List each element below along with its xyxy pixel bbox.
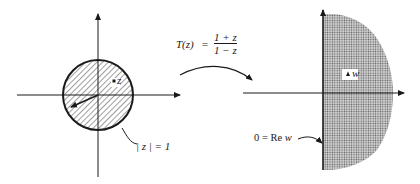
boundary-label-leader — [298, 137, 322, 143]
right-plane — [243, 10, 404, 170]
mapping-arrow-icon — [180, 66, 252, 80]
mapping-numerator: 1 + z — [214, 31, 237, 43]
diagram-canvas — [0, 0, 420, 184]
boundary-label-prefix: 0 = Re — [254, 132, 285, 143]
point-z-label: z — [117, 74, 121, 86]
mapping-equals: = — [202, 38, 208, 50]
unit-circle-label: | z | = 1 — [136, 140, 170, 152]
conformal-map-diagram: z | z | = 1 T(z) = 1 + z 1 − z w 0 = Re … — [0, 0, 420, 184]
mapping-denominator: 1 − z — [214, 44, 237, 56]
mapping-lhs: T(z) — [176, 38, 194, 50]
boundary-label-var: w — [285, 132, 292, 143]
circle-label-leader — [122, 128, 137, 144]
mapping-fraction: 1 + z 1 − z — [214, 31, 237, 56]
point-z-marker — [113, 80, 116, 83]
point-w-label: w — [352, 67, 359, 79]
left-plane — [17, 14, 180, 177]
right-half-plane-stippled-region — [323, 14, 393, 170]
boundary-label: 0 = Re w — [254, 132, 292, 143]
